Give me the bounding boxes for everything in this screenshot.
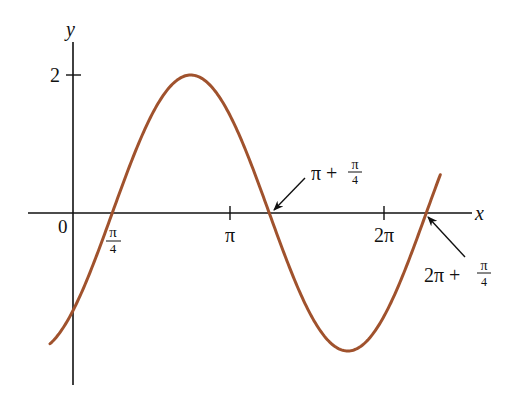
x-tick-label-pi: π: [225, 224, 235, 246]
svg-text:π: π: [480, 258, 487, 273]
sine-chart: y x 0 2 π 4 π 2π π + π 4 2π + π 4: [0, 0, 514, 393]
x-tick-label-2pi: 2π: [374, 224, 394, 246]
svg-text:4: 4: [110, 241, 117, 256]
annotation-pi-plus-pi-over-4: π + π 4: [274, 157, 362, 210]
svg-text:2π +: 2π +: [424, 264, 460, 286]
svg-text:4: 4: [352, 173, 358, 187]
x-axis-label: x: [474, 202, 484, 224]
svg-text:π: π: [109, 224, 117, 240]
annotation-2pi-plus-pi-over-4: 2π + π 4: [424, 217, 491, 289]
svg-text:4: 4: [481, 275, 487, 289]
x-tick-label-pi-over-4: π 4: [106, 224, 121, 256]
svg-text:π +: π +: [311, 162, 337, 184]
svg-text:π: π: [351, 157, 358, 172]
y-axis-label: y: [64, 18, 75, 41]
origin-label: 0: [58, 216, 68, 237]
y-tick-label-2: 2: [50, 64, 60, 86]
